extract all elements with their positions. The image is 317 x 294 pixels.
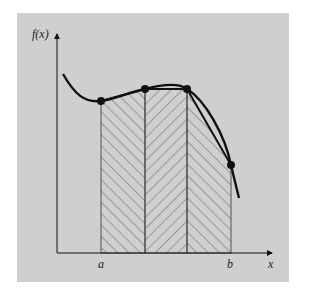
segment-1	[101, 89, 145, 253]
node-point	[227, 161, 235, 169]
integration-diagram: f(x) a b x	[0, 0, 317, 294]
node-point	[97, 97, 105, 105]
node-point	[183, 85, 191, 93]
node-point	[141, 85, 149, 93]
b-label: b	[227, 257, 233, 271]
a-label: a	[98, 257, 104, 271]
y-axis-label: f(x)	[32, 27, 49, 41]
segment-2	[145, 89, 187, 253]
x-axis-label: x	[267, 257, 274, 271]
